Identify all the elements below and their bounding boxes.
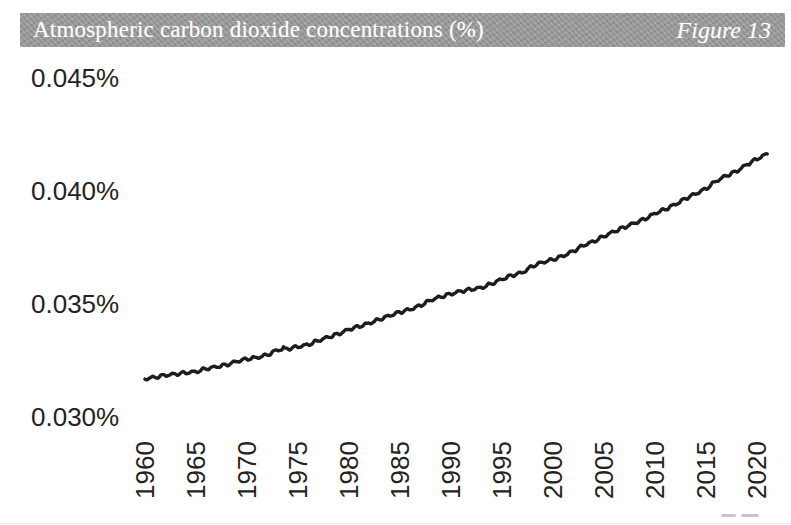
y-tick-label-0.030%: 0.030% <box>31 402 119 433</box>
x-tick-label-2000: 2000 <box>538 441 569 499</box>
x-tick-label-2010: 2010 <box>640 441 671 499</box>
x-tick-label-2020: 2020 <box>742 441 773 499</box>
figure-13-page: Atmospheric carbon dioxide concentration… <box>0 0 791 525</box>
x-tick-label-1960: 1960 <box>130 441 161 499</box>
x-tick-label-1995: 1995 <box>487 441 518 499</box>
footnote-mark <box>721 514 763 518</box>
x-tick-label-1970: 1970 <box>232 441 263 499</box>
x-tick-label-1990: 1990 <box>436 441 467 499</box>
x-tick-label-1985: 1985 <box>385 441 416 499</box>
y-tick-label-0.045%: 0.045% <box>31 63 119 94</box>
co2-concentration-line <box>145 154 767 380</box>
x-tick-label-1965: 1965 <box>181 441 212 499</box>
x-tick-label-1975: 1975 <box>283 441 314 499</box>
y-tick-label-0.040%: 0.040% <box>31 176 119 207</box>
x-tick-label-2015: 2015 <box>691 441 722 499</box>
x-tick-label-2005: 2005 <box>589 441 620 499</box>
page-scan-edge <box>0 523 791 524</box>
y-tick-label-0.035%: 0.035% <box>31 289 119 320</box>
x-tick-label-1980: 1980 <box>334 441 365 499</box>
